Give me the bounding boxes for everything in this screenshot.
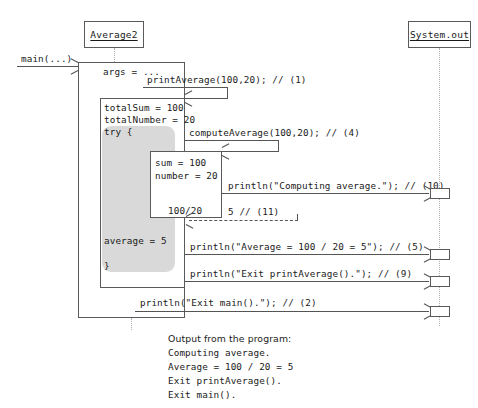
entry-arrow-head xyxy=(70,62,78,71)
print-average-local-totalsum: totalSum = 100 xyxy=(104,102,184,114)
compute-average-local-number: number = 20 xyxy=(155,170,218,182)
sequence-diagram-canvas: Average2 System.out args = ... totalSum … xyxy=(0,0,478,408)
message-1-arrow-head xyxy=(185,94,193,103)
entry-arrow-line xyxy=(17,66,78,67)
message-11-return-riser xyxy=(297,214,298,221)
message-10-line xyxy=(222,193,429,194)
message-5-line xyxy=(185,254,429,255)
participant-box-average2: Average2 xyxy=(84,21,144,48)
activation-system-out-1 xyxy=(430,188,450,199)
message-2-line xyxy=(135,311,429,312)
participant-box-system-out: System.out xyxy=(408,21,471,48)
print-average-result: average = 5 xyxy=(104,235,167,247)
activation-system-out-3 xyxy=(430,276,450,287)
print-average-try-open: try { xyxy=(104,126,133,138)
message-label-4: computeAverage(100,20); // (4) xyxy=(189,127,360,139)
participant-label-average2: Average2 xyxy=(90,29,137,40)
message-label-5: println("Average = 100 / 20 = 5"); // (5… xyxy=(190,241,424,253)
message-9-line xyxy=(185,281,429,282)
message-4-line-down xyxy=(278,140,279,151)
output-heading: Output from the program: xyxy=(168,333,291,345)
message-1-line-down xyxy=(227,87,228,98)
lifeline-average2 xyxy=(114,48,115,62)
message-1-line-top xyxy=(143,87,228,88)
message-label-2: println("Exit main()."); // (2) xyxy=(140,297,317,309)
message-label-1: printAverage(100,20); // (1) xyxy=(147,74,307,86)
print-average-close-brace: } xyxy=(104,260,110,272)
message-label-10: println("Computing average."); // (10) xyxy=(228,180,445,192)
message-11-return-line xyxy=(189,220,298,221)
message-4-line-back xyxy=(222,151,279,152)
output-line-1: Computing average. xyxy=(168,347,271,359)
output-line-2: Average = 100 / 20 = 5 xyxy=(168,361,293,373)
output-line-4: Exit main(). xyxy=(168,389,236,401)
lifeline-average2-lower xyxy=(131,318,132,330)
print-average-local-totalnumber: totalNumber = 20 xyxy=(104,114,195,126)
message-label-9: println("Exit printAverage()."); // (9) xyxy=(190,268,412,280)
participant-label-system-out: System.out xyxy=(410,29,469,40)
activation-system-out-2 xyxy=(430,249,450,260)
compute-average-local-sum: sum = 100 xyxy=(155,157,206,169)
message-11-arrow-head xyxy=(186,216,194,225)
message-4-arrow-head xyxy=(222,147,230,156)
message-label-11: 5 // (11) xyxy=(228,206,279,218)
entry-label-main: main(...) xyxy=(21,53,72,65)
message-4-line-top xyxy=(185,140,279,141)
activation-system-out-4 xyxy=(430,306,450,317)
output-line-3: Exit printAverage(). xyxy=(168,375,282,387)
